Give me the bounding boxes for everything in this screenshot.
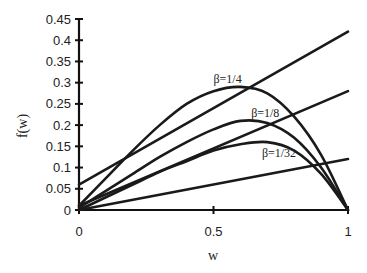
y-tick-label: 0.05 [46,181,71,196]
series-annotation: β=1/8 [251,106,279,120]
y-tick-label: 0.4 [53,33,71,48]
y-tick-label: 0.1 [53,160,71,175]
y-axis-title: f(w) [15,114,31,138]
series-annotation: β=1/32 [262,146,296,160]
x-tick-label: 1 [344,224,351,239]
series-line [79,159,348,210]
x-axis-title: w [208,248,219,263]
plot-series [79,32,348,210]
y-axis: 00.050.10.150.20.250.30.350.40.45 [46,12,83,218]
y-tick-label: 0.3 [53,75,71,90]
y-tick-label: 0.35 [46,54,71,69]
y-tick-label: 0.25 [46,96,71,111]
x-tick-label: 0.5 [204,224,222,239]
y-tick-label: 0.15 [46,139,71,154]
y-tick-label: 0.45 [46,12,71,27]
x-tick-label: 0 [75,224,82,239]
chart: 00.050.10.150.20.250.30.350.40.45 00.51 … [0,0,367,273]
y-tick-label: 0.2 [53,118,71,133]
y-tick-label: 0 [64,203,71,218]
series-annotation: β=1/4 [214,72,242,86]
x-axis: 00.51 [75,206,351,239]
